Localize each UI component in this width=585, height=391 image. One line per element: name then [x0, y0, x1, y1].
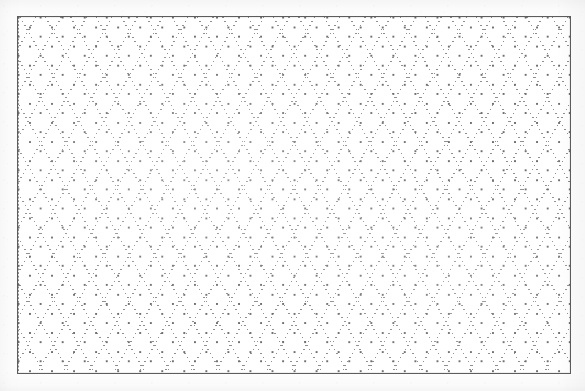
- grid-intersection-nodes: [18, 17, 570, 373]
- grid-vertical-dotted-lines: [18, 17, 570, 373]
- grid-diagonal-lines-left: [18, 17, 570, 373]
- grid-intersection-nodes-offset: [18, 17, 570, 373]
- grid-diagonal-lines-right: [18, 17, 570, 373]
- scanned-page: Isometric Dot Grid Paper Blank scanned s…: [0, 0, 585, 391]
- grid-border-frame: [17, 16, 571, 374]
- frame-inner-shadow: [18, 17, 570, 373]
- grid-ink-fade-overlay: [18, 17, 570, 373]
